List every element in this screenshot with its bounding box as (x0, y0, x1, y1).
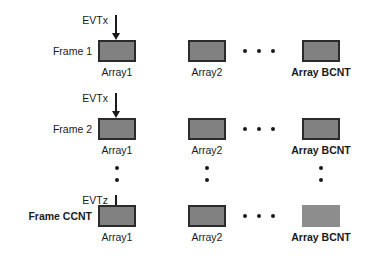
horizontal-ellipsis-frame-ccnt (243, 214, 279, 218)
array-box-frame2-arraybcnt (302, 118, 340, 140)
array-box-framesccnt-array2 (188, 205, 226, 227)
array-box-frame2-array2 (188, 118, 226, 140)
array-box-framesccnt-array1 (98, 205, 136, 227)
event-label-frame-2: EVTx (58, 92, 108, 104)
array-box-frame1-array1 (98, 40, 136, 62)
array-caption-framesccnt-arraybcnt: Array BCNT (286, 231, 356, 243)
horizontal-ellipsis-frame-2 (243, 127, 279, 131)
array-box-frame1-arraybcnt (302, 40, 340, 62)
event-label-frame-1: EVTx (58, 14, 108, 26)
vertical-ellipsis-array1 (115, 166, 119, 184)
evtx-arrow-frame-1 (112, 15, 121, 40)
frame-label-1: Frame 1 (0, 45, 92, 57)
array-caption-frame2-array1: Array1 (82, 144, 152, 156)
array-caption-frame2-arraybcnt: Array BCNT (286, 144, 356, 156)
array-caption-frame1-array2: Array2 (172, 66, 242, 78)
vertical-ellipsis-arraybcnt (319, 166, 323, 184)
vertical-ellipsis-array2 (205, 166, 209, 184)
horizontal-ellipsis-frame-1 (243, 49, 279, 53)
evtx-arrow-frame-2 (112, 93, 121, 118)
array-caption-frame1-arraybcnt: Array BCNT (286, 66, 356, 78)
diagram-canvas: EVTx Frame 1 Array1 Array2 Array BCNT EV… (0, 0, 372, 272)
array-box-frame2-array1 (98, 118, 136, 140)
array-caption-frame2-array2: Array2 (172, 144, 242, 156)
frame-label-ccnt: Frame CCNT (0, 210, 92, 222)
array-caption-framesccnt-array1: Array1 (82, 231, 152, 243)
array-caption-framesccnt-array2: Array2 (172, 231, 242, 243)
array-caption-frame1-array1: Array1 (82, 66, 152, 78)
array-box-frame1-array2 (188, 40, 226, 62)
frame-label-2: Frame 2 (0, 123, 92, 135)
array-box-framesccnt-arraybcnt (302, 205, 340, 227)
